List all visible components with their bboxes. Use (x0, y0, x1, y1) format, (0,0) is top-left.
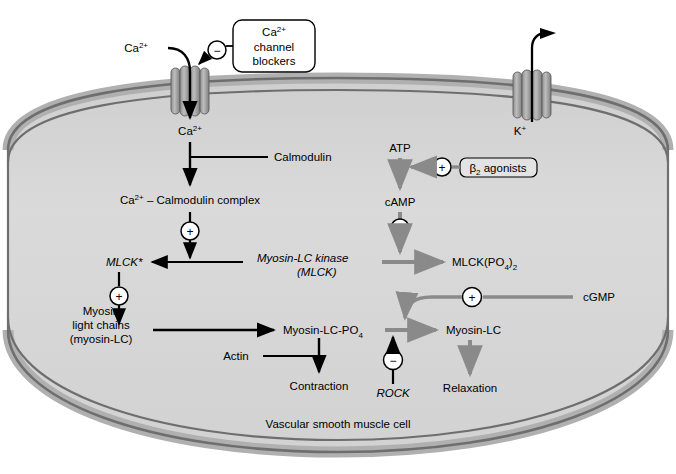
blocker-line3: blockers (253, 55, 296, 67)
ca-extracellular-label: Ca2+ (124, 41, 148, 54)
mlck-kinase-label-l2: (MLCK) (297, 266, 337, 278)
cell-caption: Vascular smooth muscle cell (266, 418, 411, 430)
plus-sign-mlck: + (115, 290, 122, 304)
pathway-diagram: Ca2+ Ca2+ K+ Ca2+ channel blockers − Cal… (0, 0, 676, 474)
mlck-kinase-label-l1: Myosin-LC kinase (257, 252, 348, 264)
plus-sign-complex: + (186, 225, 193, 239)
mlck-active-label: MLCK* (106, 256, 143, 268)
plus-sign-cgmp: + (468, 291, 475, 305)
contraction-label: Contraction (290, 380, 349, 392)
plus-sign-camp: + (396, 222, 403, 236)
rock-label: ROCK (376, 387, 411, 399)
diagram-canvas: Ca2+ Ca2+ K+ Ca2+ channel blockers − Cal… (0, 0, 676, 474)
blocker-line2: channel (254, 41, 294, 53)
myosin-lc-label-l3: (myosin-LC) (70, 333, 133, 345)
relaxation-label: Relaxation (443, 382, 497, 394)
atp-label: ATP (389, 142, 411, 154)
ca-blocker-inhibit-link: − (199, 41, 233, 64)
camp-label: cAMP (385, 196, 416, 208)
ca-channel-blockers-box[interactable]: Ca2+ channel blockers (233, 20, 315, 72)
calmodulin-label: Calmodulin (274, 151, 332, 163)
myosin-lc-label-l2: light chains (72, 319, 130, 331)
minus-sign-rock: − (389, 354, 396, 368)
myosin-lc-label-l1: Myosin (83, 305, 119, 317)
actin-label: Actin (223, 350, 249, 362)
minus-sign-ca: − (213, 44, 220, 58)
myosin-lc-node-label: Myosin-LC (446, 324, 501, 336)
cgmp-label: cGMP (583, 291, 615, 303)
plus-sign-beta2: + (438, 161, 445, 175)
beta2-agonists-box[interactable]: β2 agonists (460, 158, 537, 177)
